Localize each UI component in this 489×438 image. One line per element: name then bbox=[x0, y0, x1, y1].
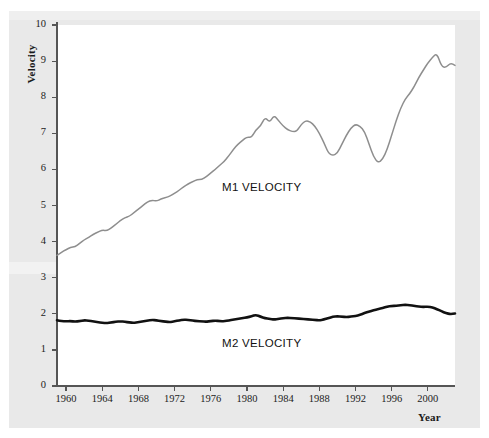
y-tick-label: 0 bbox=[26, 379, 46, 390]
y-tick-label: 2 bbox=[26, 307, 46, 318]
y-tick-label: 1 bbox=[26, 343, 46, 354]
y-tick-label: 6 bbox=[26, 162, 46, 173]
axes bbox=[57, 22, 455, 386]
x-tick-label: 1988 bbox=[299, 393, 339, 404]
x-tick-label: 1972 bbox=[155, 393, 195, 404]
y-tick-label: 8 bbox=[26, 90, 46, 101]
y-tick-label: 5 bbox=[26, 199, 46, 210]
x-tick-label: 1976 bbox=[191, 393, 231, 404]
y-tick-label: 3 bbox=[26, 271, 46, 282]
x-tick-label: 1968 bbox=[118, 393, 158, 404]
x-tick-label: 1992 bbox=[336, 393, 376, 404]
x-tick-label: 1996 bbox=[372, 393, 412, 404]
series-line-m1 bbox=[57, 55, 455, 256]
y-tick-label: 4 bbox=[26, 235, 46, 246]
y-tick-label: 7 bbox=[26, 126, 46, 137]
x-tick-label: 1984 bbox=[263, 393, 303, 404]
x-tick-label: 1964 bbox=[82, 393, 122, 404]
series-label-m2: M2 VELOCITY bbox=[222, 337, 301, 349]
x-tick-label: 2000 bbox=[408, 393, 448, 404]
series-label-m1: M1 VELOCITY bbox=[222, 181, 301, 193]
chart-canvas bbox=[0, 0, 489, 438]
y-tick-label: 10 bbox=[26, 18, 46, 29]
chart-page: Velocity Year 012345678910 1960196419681… bbox=[0, 0, 489, 438]
series-line-m2 bbox=[57, 305, 455, 323]
x-tick-label: 1980 bbox=[227, 393, 267, 404]
y-tick-label: 9 bbox=[26, 54, 46, 65]
x-tick-label: 1960 bbox=[46, 393, 86, 404]
x-axis-title: Year bbox=[418, 411, 441, 423]
